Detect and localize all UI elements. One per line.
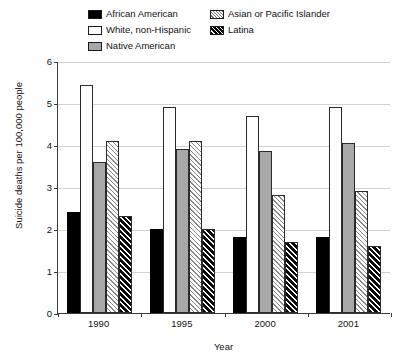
x-axis-tick (225, 313, 226, 317)
x-axis-tick-label-2001: 2001 (307, 318, 390, 329)
y-axis-tick-label: 0 (30, 309, 52, 319)
bar-group-2000 (224, 62, 307, 313)
bar-1990-asian-or-pacific-islander (106, 141, 119, 313)
legend-item-latina: Latina (210, 25, 388, 35)
bar-2000-asian-or-pacific-islander (272, 195, 285, 313)
bar-1990-native-american (93, 162, 106, 313)
chart-legend: African American Asian or Pacific Island… (88, 6, 388, 54)
bar-groups (58, 62, 390, 313)
x-axis-tick-label-1995: 1995 (140, 318, 223, 329)
y-axis-tick-label: 3 (30, 183, 52, 193)
bar-group-1990 (58, 62, 141, 313)
bar-2000-african-american (233, 237, 246, 313)
legend-label-african-american: African American (106, 9, 178, 19)
y-axis-tick-labels: 0123456 (26, 62, 52, 314)
bar-1995-african-american (150, 229, 163, 313)
x-axis-tick (308, 313, 309, 317)
legend-item-white-non-hispanic: White, non-Hispanic (88, 25, 210, 35)
legend-label-asian-or-pacific-islander: Asian or Pacific Islander (228, 9, 330, 19)
legend-label-white-non-hispanic: White, non-Hispanic (106, 25, 191, 35)
legend-swatch-white-non-hispanic (88, 26, 102, 35)
x-axis-tick (391, 313, 392, 317)
bar-2000-native-american (259, 151, 272, 313)
x-axis-tick-labels: 1990199520002001 (57, 318, 390, 329)
y-axis-tick-label: 6 (30, 57, 52, 67)
legend-item-asian-or-pacific-islander: Asian or Pacific Islander (210, 9, 388, 19)
legend-item-african-american: African American (88, 9, 210, 19)
legend-swatch-asian-or-pacific-islander (210, 10, 224, 19)
bar-1995-native-american (176, 149, 189, 313)
y-axis-title: Suicide deaths per 100,000 people (13, 56, 24, 256)
x-axis-tick-label-2000: 2000 (224, 318, 307, 329)
bar-2001-latina (368, 246, 381, 313)
legend-label-latina: Latina (228, 25, 254, 35)
y-axis-tick-label: 1 (30, 267, 52, 277)
x-axis-title: Year (57, 341, 390, 352)
x-axis-tick-label-1990: 1990 (57, 318, 140, 329)
y-axis-tick-label: 2 (30, 225, 52, 235)
bar-1995-asian-or-pacific-islander (189, 141, 202, 313)
y-axis-tick-label: 5 (30, 99, 52, 109)
bar-2000-latina (285, 242, 298, 313)
x-axis-tick (141, 313, 142, 317)
bar-2001-white-non-hispanic (329, 107, 342, 313)
legend-swatch-native-american (88, 42, 102, 51)
bar-1995-white-non-hispanic (163, 107, 176, 313)
bar-2000-white-non-hispanic (246, 116, 259, 313)
bar-1995-latina (202, 229, 215, 313)
bar-group-1995 (141, 62, 224, 313)
legend-swatch-african-american (88, 10, 102, 19)
legend-label-native-american: Native American (106, 41, 175, 51)
plot-area (57, 62, 390, 314)
x-axis-tick (58, 313, 59, 317)
bar-1990-african-american (67, 212, 80, 313)
bar-2001-native-american (342, 143, 355, 313)
bar-1990-latina (119, 216, 132, 313)
bar-1990-white-non-hispanic (80, 85, 93, 313)
y-axis-tick-label: 4 (30, 141, 52, 151)
bar-group-2001 (307, 62, 390, 313)
legend-swatch-latina (210, 26, 224, 35)
bar-2001-african-american (316, 237, 329, 313)
legend-item-native-american: Native American (88, 41, 210, 51)
bar-2001-asian-or-pacific-islander (355, 191, 368, 313)
